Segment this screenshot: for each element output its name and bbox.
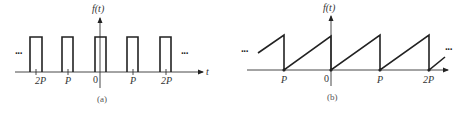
pulse [30, 37, 42, 72]
x-axis-label: t [206, 66, 209, 77]
y-axis-label: f(t) [323, 2, 336, 14]
sawtooth-wave [258, 35, 445, 70]
pulse [95, 37, 106, 72]
tick-label-2p: 2P [423, 74, 434, 85]
tick-label-p: P [129, 75, 136, 86]
tick-label-neg-p: P [280, 74, 287, 85]
tick-label-neg-p: P [64, 75, 71, 86]
pulse-train [30, 37, 171, 72]
caption-b: (b) [327, 92, 338, 102]
tick-label-p: P [376, 74, 383, 85]
pulse [127, 37, 138, 72]
ellipsis-left: ··· [15, 48, 23, 59]
tick-label-zero: 0 [93, 74, 98, 85]
ellipsis-right: ··· [445, 44, 453, 55]
y-axis-label: f(t) [92, 3, 105, 15]
ellipsis-right: ··· [181, 48, 189, 59]
pulse [160, 37, 171, 72]
figure-canvas: t f(t) 2P P 0 P 2P ··· ··· (a) [0, 0, 469, 113]
caption-a: (a) [97, 94, 107, 104]
figure-a: t f(t) 2P P 0 P 2P ··· ··· (a) [15, 3, 209, 104]
tick-label-neg-2p: 2P [35, 75, 46, 86]
figure-b: f(t) P 0 P 2P ··· ··· (b) [241, 2, 453, 102]
pulse [62, 37, 73, 72]
tick-label-zero: 0 [324, 73, 329, 84]
ellipsis-left: ··· [241, 46, 249, 57]
tick-label-2p: 2P [161, 75, 172, 86]
